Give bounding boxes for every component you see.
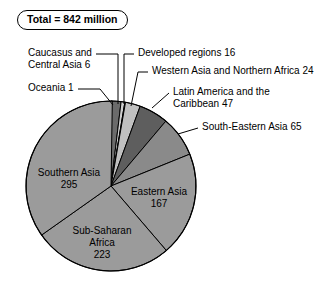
leader-line-western-asia bbox=[131, 72, 148, 106]
callout-latin-line2: Caribbean 47 bbox=[173, 98, 270, 110]
slice-label-southern-asia-value: 295 bbox=[23, 179, 115, 191]
callout-developed-regions: Developed regions 16 bbox=[138, 47, 235, 59]
callout-western-asia-northern-africa: Western Asia and Northern Africa 24 bbox=[152, 65, 314, 77]
callout-latin-america-caribbean: Latin America and the Caribbean 47 bbox=[173, 86, 270, 110]
leader-line-latin-america bbox=[152, 93, 169, 108]
pie-chart-figure: Total = 842 million Caucasus and Central… bbox=[0, 0, 321, 286]
slice-label-eastern-asia: Eastern Asia 167 bbox=[122, 186, 196, 210]
callout-caucasus-line1: Caucasus and bbox=[28, 47, 92, 59]
callout-caucasus-line2: Central Asia 6 bbox=[28, 59, 92, 71]
slice-label-subsaharan-value: 223 bbox=[62, 249, 142, 261]
slice-label-eastern-asia-name: Eastern Asia bbox=[122, 186, 196, 198]
leader-line-south-eastern-asia bbox=[178, 128, 198, 134]
callout-latin-line1: Latin America and the bbox=[173, 86, 270, 98]
slice-label-subsaharan-line2: Africa bbox=[62, 237, 142, 249]
slice-label-eastern-asia-value: 167 bbox=[122, 198, 196, 210]
callout-caucasus-central-asia: Caucasus and Central Asia 6 bbox=[28, 47, 92, 71]
slice-label-subsaharan-line1: Sub-Saharan bbox=[62, 225, 142, 237]
slice-label-southern-asia: Southern Asia 295 bbox=[23, 167, 115, 191]
pie-chart-graphic bbox=[0, 0, 321, 286]
callout-south-eastern-asia: South-Eastern Asia 65 bbox=[202, 121, 302, 133]
slice-label-southern-asia-name: Southern Asia bbox=[23, 167, 115, 179]
leader-line-caucasus bbox=[96, 54, 118, 104]
callout-oceania: Oceania 1 bbox=[28, 82, 74, 94]
slice-label-sub-saharan-africa: Sub-Saharan Africa 223 bbox=[62, 225, 142, 260]
